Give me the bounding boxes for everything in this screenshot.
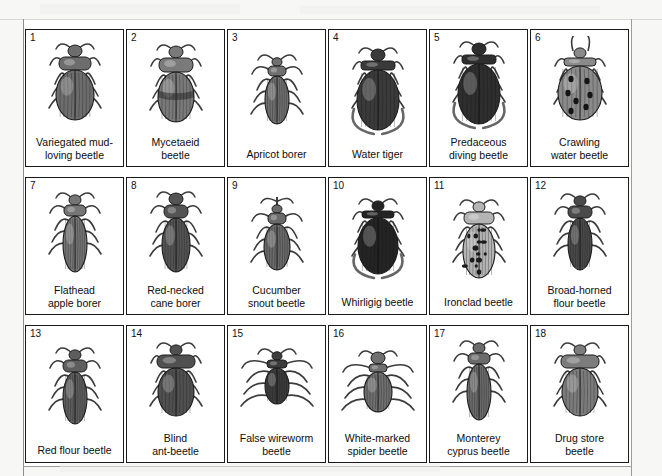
card-number: 18 xyxy=(535,328,546,339)
beetle-card[interactable]: 13Red flour beetle xyxy=(25,325,124,463)
beetle-icon xyxy=(228,30,325,148)
beetle-icon xyxy=(430,326,527,432)
beetle-icon xyxy=(127,30,224,136)
card-label: Monterey cyprus beetle xyxy=(430,432,527,463)
beetle-icon xyxy=(531,30,628,136)
card-number: 9 xyxy=(232,180,238,191)
beetle-card[interactable]: 10Whirligig beetle xyxy=(328,177,427,315)
card-label: Red-necked cane borer xyxy=(127,284,224,315)
card-number: 14 xyxy=(131,328,142,339)
beetle-card[interactable]: 18Drug store beetle xyxy=(530,325,629,463)
card-number: 8 xyxy=(131,180,137,191)
card-number: 11 xyxy=(434,180,444,191)
card-number: 4 xyxy=(333,32,339,43)
card-number: 7 xyxy=(30,180,36,191)
card-label: Flathead apple borer xyxy=(26,284,123,315)
page-edge-bottom xyxy=(23,466,632,467)
card-label: Red flour beetle xyxy=(26,444,123,463)
card-label: Cucumber snout beetle xyxy=(228,284,325,315)
beetle-card[interactable]: 15False wireworm beetle xyxy=(227,325,326,463)
beetle-card[interactable]: 9Cucumber snout beetle xyxy=(227,177,326,315)
card-number: 16 xyxy=(333,328,344,339)
beetle-icon xyxy=(26,326,123,444)
beetle-icon xyxy=(531,178,628,284)
card-label: Ironclad beetle xyxy=(430,296,527,315)
card-label: Drug store beetle xyxy=(531,432,628,463)
beetle-card[interactable]: 4Water tiger xyxy=(328,29,427,167)
beetle-card[interactable]: 2Mycetaeid beetle xyxy=(126,29,225,167)
beetle-icon xyxy=(329,178,426,296)
card-number: 17 xyxy=(434,328,445,339)
card-label: Whirligig beetle xyxy=(329,296,426,315)
beetle-card[interactable]: 14Blind ant-beetle xyxy=(126,325,225,463)
beetle-card[interactable]: 12Broad-horned flour beetle xyxy=(530,177,629,315)
card-number: 3 xyxy=(232,32,238,43)
beetle-icon xyxy=(127,178,224,284)
beetle-icon xyxy=(26,178,123,284)
card-label: False wireworm beetle xyxy=(228,432,325,463)
beetle-grid: 1Variegated mud- loving beetle2Mycetaeid… xyxy=(25,29,631,459)
beetle-icon xyxy=(329,30,426,148)
card-number: 15 xyxy=(232,328,243,339)
beetle-card[interactable]: 5Predaceous diving beetle xyxy=(429,29,528,167)
card-number: 1 xyxy=(30,32,36,43)
beetle-card[interactable]: 3Apricot borer xyxy=(227,29,326,167)
card-number: 13 xyxy=(30,328,41,339)
beetle-icon xyxy=(430,178,527,296)
beetle-card[interactable]: 1Variegated mud- loving beetle xyxy=(25,29,124,167)
card-label: Blind ant-beetle xyxy=(127,432,224,463)
card-label: White-marked spider beetle xyxy=(329,432,426,463)
beetle-card[interactable]: 17Monterey cyprus beetle xyxy=(429,325,528,463)
beetle-icon xyxy=(26,30,123,136)
card-number: 10 xyxy=(333,180,344,191)
card-label: Crawling water beetle xyxy=(531,136,628,167)
scan-blotch xyxy=(300,6,600,14)
card-number: 2 xyxy=(131,32,137,43)
beetle-icon xyxy=(127,326,224,432)
beetle-card[interactable]: 8Red-necked cane borer xyxy=(126,177,225,315)
card-label: Variegated mud- loving beetle xyxy=(26,136,123,167)
card-number: 12 xyxy=(535,180,546,191)
beetle-card[interactable]: 7Flathead apple borer xyxy=(25,177,124,315)
beetle-icon xyxy=(430,30,527,136)
beetle-card[interactable]: 16White-marked spider beetle xyxy=(328,325,427,463)
beetle-icon xyxy=(329,326,426,432)
beetle-icon xyxy=(531,326,628,432)
plate-page: 1Variegated mud- loving beetle2Mycetaeid… xyxy=(0,0,662,476)
card-number: 5 xyxy=(434,32,440,43)
card-label: Apricot borer xyxy=(228,148,325,167)
beetle-icon xyxy=(228,326,325,432)
beetle-card[interactable]: 6Crawling water beetle xyxy=(530,29,629,167)
page-edge-left xyxy=(23,19,24,476)
page-edge-right xyxy=(631,19,632,476)
card-label: Water tiger xyxy=(329,148,426,167)
beetle-icon xyxy=(228,178,325,284)
card-number: 6 xyxy=(535,32,541,43)
card-label: Broad-horned flour beetle xyxy=(531,284,628,315)
card-label: Predaceous diving beetle xyxy=(430,136,527,167)
card-label: Mycetaeid beetle xyxy=(127,136,224,167)
beetle-card[interactable]: 11Ironclad beetle xyxy=(429,177,528,315)
scan-blotch xyxy=(40,4,240,14)
